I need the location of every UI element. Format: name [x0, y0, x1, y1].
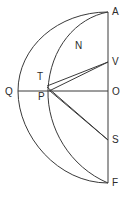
line-PS	[50, 91, 108, 140]
line-TV	[47, 62, 108, 86]
point-label-O: O	[112, 87, 120, 97]
point-label-N: N	[75, 41, 82, 51]
geometry-canvas	[0, 0, 130, 197]
point-label-T: T	[37, 72, 43, 82]
point-label-A: A	[112, 7, 119, 17]
point-label-F: F	[112, 178, 118, 188]
geometric-figure: A N V T Q P O S F	[0, 0, 130, 197]
line-PV	[49, 62, 108, 91]
point-label-V: V	[112, 57, 119, 67]
point-label-S: S	[112, 135, 119, 145]
point-label-P: P	[38, 92, 45, 102]
arc-outer-AQF	[18, 12, 108, 183]
point-label-Q: Q	[5, 87, 13, 97]
